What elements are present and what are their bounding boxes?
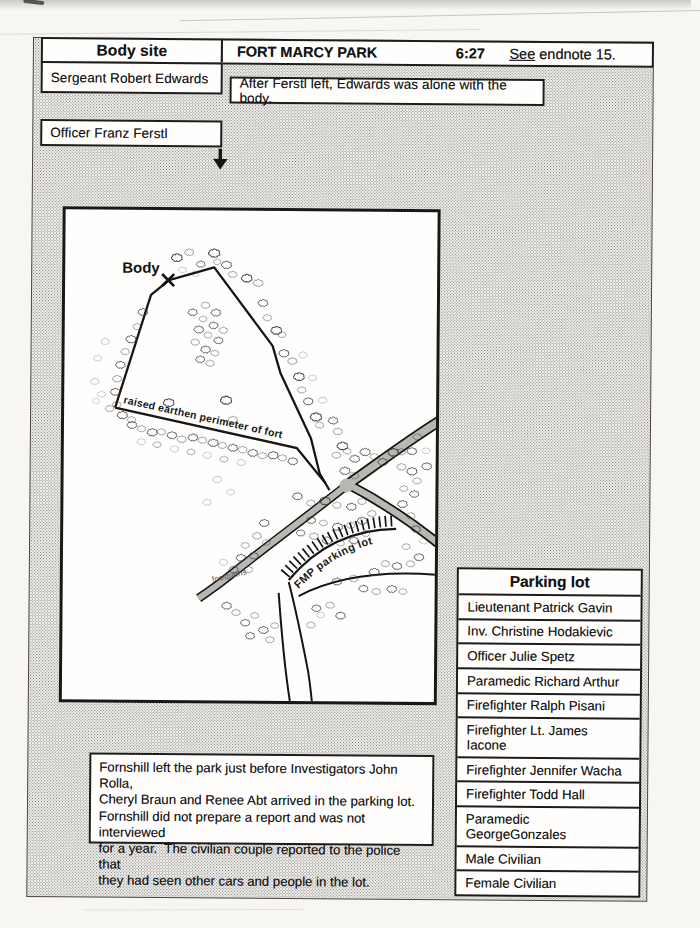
note-line-5: they had seen other cars and people in t… [98,873,423,892]
parking-row-male-civilian: Male Civilian [456,847,638,873]
footpaths-label: footpaths [211,567,248,584]
fornshill-note-box: Fornshill left the park just before Inve… [89,752,435,846]
scan-streak-bottom [83,909,303,911]
note-line-2: Cheryl Braun and Renee Abt arrived in th… [99,792,424,811]
perimeter-label: raised earthen perimeter of fort [122,393,284,440]
parking-row-gavin: Lieutenant Patrick Gavin [458,595,640,621]
down-arrow-icon [211,148,229,170]
parking-row-hall: Firefighter Todd Hall [457,783,639,809]
park-title: FORT MARCY PARK [237,41,378,64]
officer-label: Officer Franz Ferstl [50,125,167,141]
sergeant-label: Sergeant Robert Edwards [51,70,209,86]
parking-row-spetz: Officer Julie Spetz [458,645,640,671]
box-sergeant-edwards: Sergeant Robert Edwards [41,61,223,94]
park-map: Body raised earthen perimeter of fort FM… [59,206,441,705]
header-cell-fort-marcy: FORT MARCY PARK 6:27 See endnote 15. [221,38,654,67]
parking-row-wacha: Firefighter Jennifer Wacha [457,758,639,784]
box-after-ferstl-note: After Ferstl left, Edwards was alone wit… [230,76,545,105]
time-label: 6:27 [456,42,485,64]
parking-row-pisani: Firefighter Ralph Pisani [458,694,640,720]
parking-row-iacone: Firefighter Lt. James Iacone [457,719,639,760]
parking-lot-table: Parking lot Lieutenant Patrick Gavin Inv… [454,567,643,897]
note-line-1: Fornshill left the park just before Inve… [99,759,424,794]
parking-row-female-civilian: Female Civilian [456,872,638,896]
scan-smudge-topleft [23,0,44,5]
see-word: See [509,46,535,62]
park-map-drawing: Body raised earthen perimeter of fort FM… [62,209,438,702]
body-site-label: Body site [97,41,168,60]
parking-row-hodakievic: Inv. Christine Hodakievic [458,620,640,646]
parking-row-gonzales: Paramedic GeorgeGonzales [457,807,639,848]
endnote-ref: See endnote 15. [509,43,616,66]
scan-streak-2 [0,29,480,35]
box-officer-ferstl: Officer Franz Ferstl [40,119,222,147]
note-line-4: for a year. The civilian couple reported… [98,841,423,876]
parking-lot-title: Parking lot [459,569,641,596]
parking-lower-arc [299,573,438,597]
endnote-rest: endnote 15. [535,46,616,63]
scan-streak-1 [180,10,700,21]
tree-clusters [88,248,433,644]
after-note-text: After Ferstl left, Edwards was alone wit… [239,75,534,107]
parking-row-arthur: Paramedic Richard Arthur [458,669,640,695]
body-label: Body [122,259,160,276]
note-line-3: Fornshill did not prepare a report and w… [99,808,424,843]
